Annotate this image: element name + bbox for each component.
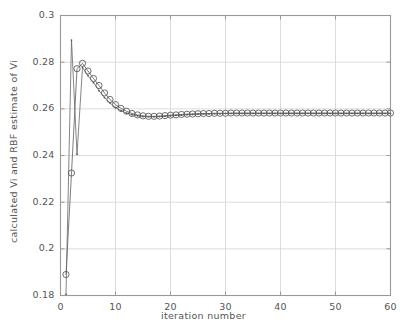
x-tick-label: 40 bbox=[261, 301, 301, 312]
series-lines bbox=[66, 40, 391, 294]
y-axis-label-wrap: calculated Vi and RBF estimate of Vi bbox=[0, 0, 20, 310]
x-axis-label: iteration number bbox=[0, 310, 407, 321]
y-tick-label: 0.2 bbox=[39, 242, 55, 253]
y-tick-label: 0.22 bbox=[33, 196, 55, 207]
chart-plot-area bbox=[0, 0, 407, 332]
x-tick-label: 10 bbox=[96, 301, 136, 312]
x-tick-label: 60 bbox=[371, 301, 407, 312]
x-tick-label: 50 bbox=[316, 301, 356, 312]
y-tick-label: 0.26 bbox=[33, 102, 55, 113]
gridlines bbox=[61, 16, 391, 296]
y-tick-label: 0.28 bbox=[33, 56, 55, 67]
x-tick-label: 20 bbox=[151, 301, 191, 312]
y-axis-label: calculated Vi and RBF estimate of Vi bbox=[8, 17, 19, 287]
chart-figure: calculated Vi and RBF estimate of Vi ite… bbox=[0, 0, 407, 332]
x-tick-label: 0 bbox=[41, 301, 81, 312]
series-markers bbox=[63, 39, 394, 295]
y-tick-label: 0.3 bbox=[39, 9, 55, 20]
y-tick-label: 0.18 bbox=[33, 289, 55, 300]
y-tick-label: 0.24 bbox=[33, 149, 55, 160]
x-tick-label: 30 bbox=[206, 301, 246, 312]
